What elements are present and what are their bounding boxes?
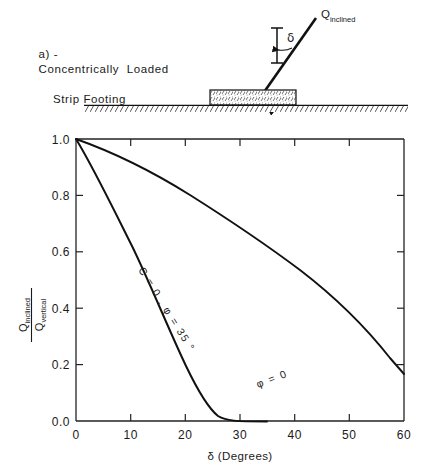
y-tick-label: 0.2 [52,358,70,372]
chart-container: 0 10 20 30 40 50 60 0.0 0.2 0.4 0.6 0.8 … [0,120,426,466]
ground-hatching [84,106,408,112]
strip-footing-sketch: Qinclined δ [0,0,426,125]
y-tick-label: 0.4 [52,302,70,316]
x-tick-labels: 0 10 20 30 40 50 60 [72,428,411,442]
inclined-load-reduction-chart: 0 10 20 30 40 50 60 0.0 0.2 0.4 0.6 0.8 … [0,120,426,466]
curve-c0-phi35 [76,139,267,422]
curve-phi-0 [76,139,404,374]
x-tick-label: 60 [397,428,411,442]
x-axis-title: δ (Degrees) [207,450,272,462]
x-tick-label: 40 [288,428,302,442]
x-tick-label: 20 [178,428,192,442]
x-tick-label: 30 [233,428,247,442]
y-axis-ticks [76,195,404,364]
y-tick-label: 0.6 [52,245,70,259]
y-axis-denominator: Qvertical [33,299,48,332]
y-tick-label: 0.8 [52,189,70,203]
y-axis-title: Qinclined Qvertical [17,288,48,342]
x-tick-label: 0 [72,428,79,442]
curve-label-c0-phi35: C = 0 , φ = 35 ° [136,265,198,354]
curve-label-phi-0: φ = 0 [254,367,289,390]
load-symbol-label: Qinclined [321,8,355,24]
angle-arc [279,48,292,50]
strip-footing-block [210,90,296,105]
delta-angle-label: δ [287,31,294,45]
y-tick-label: 0.0 [52,415,70,429]
x-tick-label: 50 [342,428,356,442]
x-tick-label: 10 [124,428,138,442]
inclined-load-arrow [262,18,316,95]
y-axis-numerator: Qinclined [17,298,32,332]
y-tick-labels: 0.0 0.2 0.4 0.6 0.8 1.0 [52,133,70,429]
y-tick-label: 1.0 [52,133,70,147]
x-axis-ticks [131,139,350,421]
plot-frame [76,139,404,421]
